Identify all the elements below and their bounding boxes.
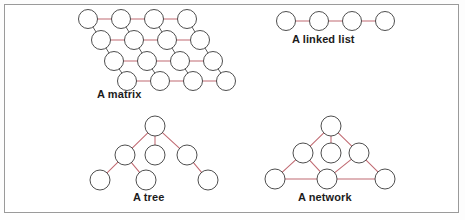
- linked-list-node: [343, 12, 362, 31]
- matrix-edge-diagonal: [218, 69, 221, 73]
- tree-node: [115, 145, 135, 165]
- matrix-edge-diagonal: [205, 48, 208, 53]
- matrix-edge-diagonal: [172, 48, 175, 53]
- figure-root: A matrix A linked list A tree A network: [0, 0, 465, 220]
- matrix-node: [79, 10, 98, 29]
- matrix-edge-diagonal: [159, 27, 162, 32]
- network-node: [317, 169, 337, 189]
- matrix-node: [112, 10, 131, 29]
- tree-edge: [132, 133, 148, 148]
- matrix-node: [178, 10, 197, 29]
- matrix-node: [145, 10, 164, 29]
- matrix-edge-diagonal: [106, 48, 109, 53]
- matrix-node: [125, 31, 144, 50]
- tree-node: [145, 145, 165, 165]
- linked-list-node: [277, 12, 296, 31]
- matrix-edge-diagonal: [192, 27, 195, 32]
- diagrams-canvas: [0, 0, 465, 220]
- matrix-node: [204, 52, 223, 71]
- caption-matrix: A matrix: [97, 88, 141, 100]
- network-edge: [310, 160, 320, 171]
- network-node: [321, 143, 341, 163]
- matrix-node: [138, 52, 157, 71]
- network-edge: [338, 133, 352, 146]
- tree-edge: [107, 162, 118, 173]
- tree-node: [145, 116, 165, 136]
- matrix-edge-diagonal: [93, 27, 96, 32]
- linked-list-node: [376, 12, 395, 31]
- diagram-network: [265, 116, 395, 189]
- network-node: [349, 143, 369, 163]
- caption-network: A network: [298, 191, 352, 203]
- diagram-matrix: [79, 10, 236, 91]
- matrix-node: [92, 31, 111, 50]
- tree-node: [177, 145, 197, 165]
- tree-node: [90, 170, 110, 190]
- network-edge: [310, 133, 324, 146]
- network-edge: [366, 160, 378, 172]
- matrix-node: [151, 72, 170, 91]
- caption-tree: A tree: [133, 191, 164, 203]
- matrix-node: [158, 31, 177, 50]
- tree-node: [136, 170, 156, 190]
- network-node: [293, 143, 313, 163]
- tree-edge: [162, 133, 179, 149]
- matrix-edge-diagonal: [152, 69, 155, 73]
- tree-edge: [131, 163, 139, 173]
- diagram-linked-list: [277, 12, 395, 31]
- matrix-node: [217, 72, 236, 91]
- tree-edge: [193, 163, 201, 173]
- linked-list-node: [310, 12, 329, 31]
- network-node: [375, 169, 395, 189]
- matrix-node: [171, 52, 190, 71]
- matrix-edge-diagonal: [185, 69, 188, 73]
- tree-node: [198, 170, 218, 190]
- network-edge: [282, 160, 295, 172]
- caption-linked-list: A linked list: [292, 33, 355, 45]
- matrix-edge-diagonal: [126, 27, 129, 32]
- matrix-edge-diagonal: [139, 48, 142, 53]
- network-node: [265, 169, 285, 189]
- matrix-node: [105, 52, 124, 71]
- diagram-tree: [90, 116, 218, 190]
- matrix-node: [191, 31, 210, 50]
- network-node: [321, 116, 341, 136]
- matrix-edge-diagonal: [119, 69, 122, 73]
- matrix-node: [184, 72, 203, 91]
